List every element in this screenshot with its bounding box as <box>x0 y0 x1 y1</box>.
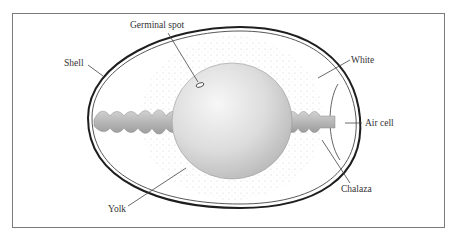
yolk <box>172 63 292 179</box>
label-chalaza: Chalaza <box>341 184 372 194</box>
label-white: White <box>351 55 374 65</box>
label-germinal-spot: Germinal spot <box>130 20 184 30</box>
chalaza-right <box>286 112 335 133</box>
chalaza-left <box>94 110 184 134</box>
label-air-cell: Air cell <box>365 118 394 128</box>
egg-diagram: Germinal spot Shell White Air cell Chala… <box>0 0 458 240</box>
label-yolk: Yolk <box>108 204 126 214</box>
label-shell: Shell <box>64 58 84 68</box>
